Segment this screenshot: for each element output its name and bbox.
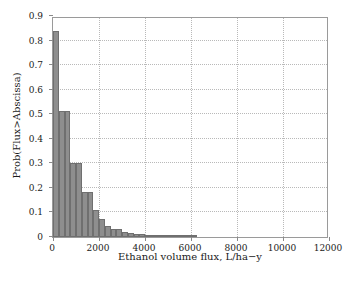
x-tick-mark xyxy=(283,237,284,241)
y-tick-label: 0 xyxy=(0,233,43,242)
y-tick-label: 0.4 xyxy=(0,135,43,144)
x-tick-mark xyxy=(99,237,100,241)
x-tick-mark xyxy=(329,237,330,241)
figure-container: Prob(Flux>Abscissa) 00.10.20.30.40.50.60… xyxy=(0,0,354,284)
plot-inner xyxy=(53,18,327,237)
y-tick-mark xyxy=(49,64,53,65)
gridline-horizontal xyxy=(53,138,327,139)
y-tick-mark xyxy=(49,211,53,212)
y-tick-mark xyxy=(49,15,53,16)
gridline-horizontal xyxy=(53,40,327,41)
gridline-vertical xyxy=(145,18,146,237)
y-tick-mark xyxy=(49,162,53,163)
y-tick-mark xyxy=(49,187,53,188)
gridline-horizontal xyxy=(53,64,327,65)
x-tick-mark xyxy=(191,237,192,241)
y-tick-label: 0.6 xyxy=(0,86,43,95)
y-tick-mark xyxy=(49,89,53,90)
x-axis-title: Ethanol volume flux, L/ha−y xyxy=(52,251,328,262)
y-tick-label: 0.2 xyxy=(0,184,43,193)
gridline-vertical xyxy=(99,18,100,237)
x-tick-mark xyxy=(237,237,238,241)
plot-area xyxy=(52,17,328,238)
x-tick-mark xyxy=(53,237,54,241)
gridline-horizontal xyxy=(53,113,327,114)
y-tick-label: 0.5 xyxy=(0,110,43,119)
y-tick-label: 0.3 xyxy=(0,159,43,168)
x-tick-mark xyxy=(145,237,146,241)
gridline-horizontal xyxy=(53,187,327,188)
gridline-vertical xyxy=(191,18,192,237)
y-tick-mark xyxy=(49,113,53,114)
gridline-vertical xyxy=(237,18,238,237)
gridline-horizontal xyxy=(53,89,327,90)
gridline-horizontal xyxy=(53,162,327,163)
y-tick-label: 0.9 xyxy=(0,12,43,21)
y-tick-label: 0.7 xyxy=(0,61,43,70)
caption-fragment xyxy=(6,274,346,284)
y-tick-label: 0.8 xyxy=(0,37,43,46)
y-tick-mark xyxy=(49,40,53,41)
y-axis-title: Prob(Flux>Abscissa) xyxy=(11,51,22,201)
gridline-vertical xyxy=(283,18,284,237)
y-tick-label: 0.1 xyxy=(0,208,43,217)
y-tick-mark xyxy=(49,138,53,139)
